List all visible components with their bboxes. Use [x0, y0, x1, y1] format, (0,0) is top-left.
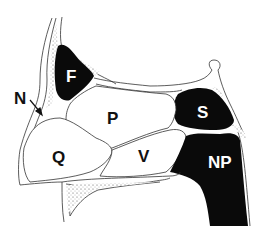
anatomy-diagram: N F P Q S V NP: [0, 0, 272, 242]
label-s: S: [197, 103, 208, 122]
label-n: N: [14, 89, 26, 108]
label-f: F: [66, 67, 76, 86]
palate-stipple: [66, 182, 156, 214]
label-v: V: [138, 147, 150, 166]
label-np: NP: [208, 153, 232, 172]
label-p: P: [107, 109, 118, 128]
label-q: Q: [52, 148, 65, 167]
nasion-arrow: [30, 100, 42, 115]
